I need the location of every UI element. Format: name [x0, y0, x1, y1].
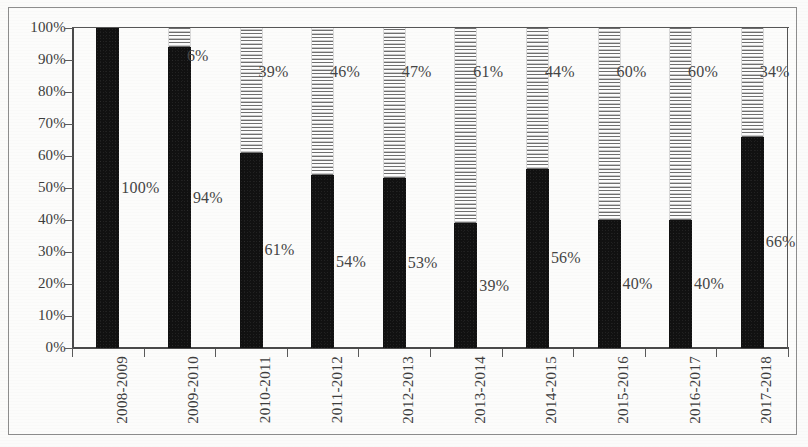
- bar-segment-solid[interactable]: [168, 47, 191, 348]
- y-axis-tick-label: 80%: [6, 84, 66, 99]
- bar-label-hatched: 39%: [259, 64, 289, 80]
- bar-segment-solid[interactable]: [598, 220, 621, 348]
- x-axis-tick-mark: [716, 349, 717, 357]
- bar-segment-hatched[interactable]: [454, 28, 477, 223]
- bar-segment-hatched[interactable]: [168, 28, 191, 47]
- x-axis-category-label: 2013-2014: [473, 356, 488, 424]
- bar-label-hatched: 46%: [330, 64, 360, 80]
- y-axis-tick-label: 30%: [6, 244, 66, 259]
- bar-segment-hatched[interactable]: [741, 28, 764, 137]
- x-axis-tick-mark: [215, 349, 216, 357]
- y-axis-tick-label: 70%: [6, 116, 66, 131]
- bar-segment-solid[interactable]: [240, 153, 263, 348]
- bar-label-hatched: 60%: [617, 64, 647, 80]
- bar-label-hatched: 6%: [187, 48, 209, 64]
- x-axis-tick-mark: [72, 349, 73, 357]
- bar-segment-solid[interactable]: [96, 28, 119, 348]
- bar-segment-hatched[interactable]: [311, 28, 334, 175]
- y-axis-tick-label: 90%: [6, 52, 66, 67]
- bar-label-solid: 40%: [623, 276, 653, 292]
- bar-label-solid: 54%: [336, 254, 366, 270]
- bar-label-solid: 39%: [479, 278, 509, 294]
- bar-label-hatched: 61%: [473, 64, 503, 80]
- x-axis-category-label: 2009-2010: [186, 356, 201, 424]
- x-axis-category-label: 2017-2018: [759, 356, 774, 424]
- bar-segment-solid[interactable]: [383, 178, 406, 348]
- bar-label-hatched: 47%: [402, 64, 432, 80]
- x-axis-category-label: 2015-2016: [616, 356, 631, 424]
- bar-segment-hatched[interactable]: [240, 28, 263, 153]
- bar-column[interactable]: [168, 28, 191, 348]
- x-axis-tick-mark: [788, 349, 789, 357]
- bar-segment-solid[interactable]: [311, 175, 334, 348]
- x-axis-tick-mark: [430, 349, 431, 357]
- bar-segment-hatched[interactable]: [669, 28, 692, 220]
- x-axis-tick-mark: [645, 349, 646, 357]
- x-axis-category-label: 2014-2015: [544, 356, 559, 424]
- bar-segment-hatched[interactable]: [598, 28, 621, 220]
- y-axis-tick-label: 40%: [6, 212, 66, 227]
- bar-segment-hatched[interactable]: [383, 28, 406, 178]
- x-axis-category-label: 2012-2013: [401, 356, 416, 424]
- bar-label-solid: 66%: [766, 234, 796, 250]
- y-axis-tick-label: 10%: [6, 308, 66, 323]
- bar-label-solid: 40%: [694, 276, 724, 292]
- x-axis-tick-mark: [287, 349, 288, 357]
- bar-label-solid: 53%: [408, 255, 438, 271]
- bar-label-solid: 61%: [265, 242, 295, 258]
- y-axis-tick-label: 100%: [6, 20, 66, 35]
- bar-label-hatched: 60%: [688, 64, 718, 80]
- y-axis-tick-label: 0%: [6, 340, 66, 355]
- bar-segment-solid[interactable]: [454, 223, 477, 348]
- bar-segment-solid[interactable]: [741, 137, 764, 348]
- bar-column[interactable]: [96, 28, 119, 348]
- x-axis-tick-mark: [573, 349, 574, 357]
- bar-label-hatched: 34%: [760, 64, 790, 80]
- bar-segment-solid[interactable]: [669, 220, 692, 348]
- x-axis-category-label: 2010-2011: [258, 356, 273, 423]
- x-axis-category-label: 2011-2012: [330, 356, 345, 423]
- bar-segment-hatched[interactable]: [526, 28, 549, 169]
- y-axis-tick-label: 20%: [6, 276, 66, 291]
- y-axis-tick-label: 50%: [6, 180, 66, 195]
- bar-segment-solid[interactable]: [526, 169, 549, 348]
- y-axis-tick-label: 60%: [6, 148, 66, 163]
- bar-label-solid: 94%: [193, 190, 223, 206]
- bar-label-solid: 56%: [551, 250, 581, 266]
- bar-label-solid: 100%: [121, 180, 159, 196]
- x-axis-tick-mark: [144, 349, 145, 357]
- x-axis-category-label: 2016-2017: [688, 356, 703, 424]
- chart-figure: 0%10%20%30%40%50%60%70%80%90%100% 100%94…: [0, 0, 808, 447]
- x-axis-tick-mark: [502, 349, 503, 357]
- bar-label-hatched: 44%: [545, 64, 575, 80]
- x-axis-category-label: 2008-2009: [115, 356, 130, 424]
- x-axis-tick-mark: [358, 349, 359, 357]
